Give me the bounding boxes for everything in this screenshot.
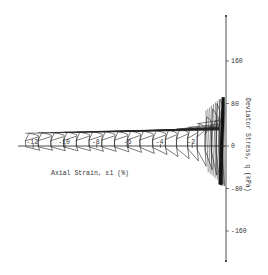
- y-tick-label: -80: [231, 186, 243, 193]
- x-tick-label: -4: [155, 139, 163, 146]
- y-tick-label: -160: [231, 228, 247, 235]
- x-tick-label: -6: [124, 139, 132, 146]
- x-axis-title: Axial Strain, ε1 (%): [51, 170, 129, 177]
- x-tick-label: -12: [26, 139, 38, 146]
- envelope-line: [38, 130, 219, 133]
- dense-loop-line: [206, 110, 208, 172]
- dense-cycle-band: [206, 97, 225, 186]
- hysteresis-loop: [165, 130, 178, 157]
- x-tick-label: -8: [92, 139, 100, 146]
- hysteresis-loop: [76, 132, 91, 151]
- y-axis-title: Deviator Stress, q (kPa): [244, 98, 251, 192]
- chart-plot-area: -12-10-8-6-4-2 160800-80-160 Axial Strai…: [0, 0, 268, 275]
- y-axis-bottom-arrow: [225, 260, 227, 262]
- y-tick-label: 80: [231, 101, 239, 108]
- hysteresis-loop: [102, 132, 117, 152]
- y-axis-ticks: 160800-80-160: [226, 58, 247, 235]
- y-axis-top-arrow: [225, 15, 227, 17]
- y-tick-label: 0: [231, 143, 235, 150]
- x-tick-label: -10: [58, 139, 70, 146]
- hysteresis-loop: [140, 131, 155, 153]
- y-tick-label: 160: [231, 58, 243, 65]
- hysteresis-loop: [38, 133, 53, 151]
- x-tick-label: -2: [187, 139, 195, 146]
